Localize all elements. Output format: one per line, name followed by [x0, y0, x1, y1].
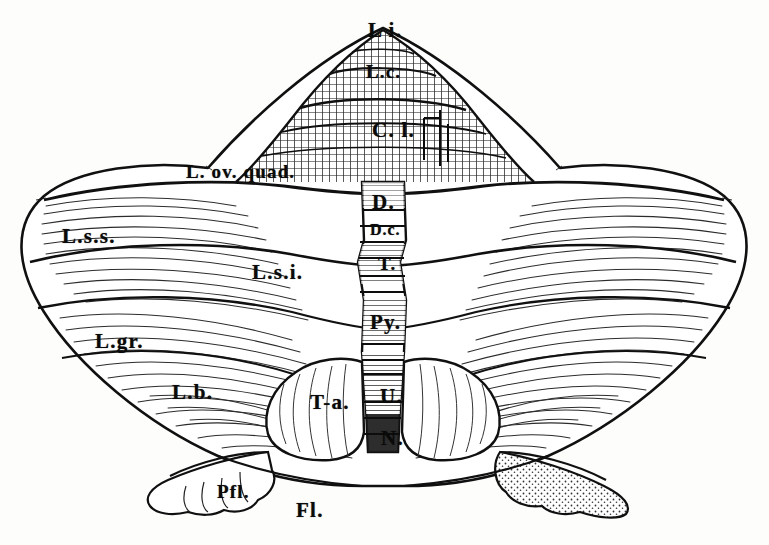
label-lobulus-ovalis-quadrangularis: L. ov. quad.	[186, 162, 295, 181]
label-culmen: C. l.	[372, 120, 415, 141]
label-pyramis: Py.	[370, 312, 401, 333]
label-declive: D.	[372, 192, 395, 213]
label-lobulus-biventer: L.b.	[172, 382, 213, 403]
label-flocculus: Fl.	[296, 500, 324, 521]
label-lobulus-gracilis: L.gr.	[95, 331, 144, 352]
label-tonsilla: T-a.	[310, 392, 350, 413]
label-declive-clivus: D.c.	[370, 222, 401, 238]
label-uvula: U.	[380, 386, 403, 407]
label-paraflocculus: Pfl.	[217, 482, 250, 501]
label-lobulus-semilunaris-superior: L.s.s.	[62, 226, 116, 247]
label-lobulus-centralis: L.c.	[366, 62, 401, 81]
label-tuber: T.	[378, 254, 396, 273]
label-lobulus-semilunaris-inferior: L.s.i.	[252, 262, 303, 283]
anatomical-plate: L i.L.c.C. l.L. ov. quad.D.D.c.L.s.s.T.L…	[0, 0, 769, 545]
label-nodulus: N.	[381, 428, 404, 449]
flocculus-left	[148, 452, 275, 515]
label-lingula: L i.	[368, 20, 402, 41]
flocculus-right	[495, 452, 628, 518]
